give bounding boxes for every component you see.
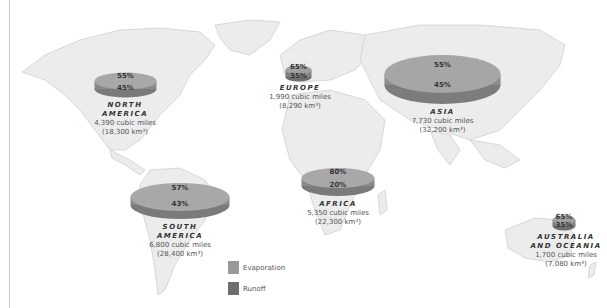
region-name-2: AND OCEANIA xyxy=(525,242,607,251)
volume-km: (32,200 km³) xyxy=(400,126,485,135)
volume-km: (22,300 km³) xyxy=(298,218,378,227)
world-map xyxy=(0,0,607,308)
evaporation-pct: 55% xyxy=(384,61,501,69)
runoff-pct: 43% xyxy=(130,200,230,208)
label-south-america: SOUTH AMERICA 6,800 cubic miles (28,400 … xyxy=(140,223,220,259)
volume-miles: 4,390 cubic miles xyxy=(85,119,165,128)
legend-runoff: Runoff xyxy=(228,282,266,295)
volume-miles: 7,730 cubic miles xyxy=(400,117,485,126)
evaporation-pct: 55% xyxy=(94,72,157,80)
volume-miles: 1,700 cubic miles xyxy=(525,251,607,260)
pie-north-america: 55% 45% xyxy=(94,70,157,98)
pie-south-america: 57% 43% xyxy=(130,180,230,220)
region-name: AFRICA xyxy=(298,200,378,209)
runoff-pct: 35% xyxy=(285,72,312,80)
region-name-2: AMERICA xyxy=(140,232,220,241)
volume-km: (8,290 km³) xyxy=(260,102,340,111)
evaporation-pct: 65% xyxy=(285,63,312,71)
volume-km: (18,300 km³) xyxy=(85,128,165,137)
volume-miles: 6,800 cubic miles xyxy=(140,241,220,250)
volume-km: (7,080 km³) xyxy=(525,260,607,269)
region-name: EUROPE xyxy=(260,84,340,93)
legend-evaporation-label: Evaporation xyxy=(243,264,285,272)
runoff-swatch xyxy=(228,282,239,295)
runoff-pct: 45% xyxy=(94,84,157,92)
pie-australia-oceania: 65% 35% xyxy=(552,213,576,231)
evaporation-swatch xyxy=(228,261,239,274)
region-name: NORTH xyxy=(85,101,165,110)
region-name: ASIA xyxy=(400,108,485,117)
label-europe: EUROPE 1,990 cubic miles (8,290 km³) xyxy=(260,84,340,111)
label-north-america: NORTH AMERICA 4,390 cubic miles (18,300 … xyxy=(85,101,165,137)
pie-africa: 80% 20% xyxy=(301,165,375,197)
runoff-pct: 35% xyxy=(552,221,576,229)
label-africa: AFRICA 5,350 cubic miles (22,300 km³) xyxy=(298,200,378,227)
evaporation-pct: 80% xyxy=(301,168,375,176)
evaporation-pct: 65% xyxy=(552,213,576,221)
volume-km: (28,400 km³) xyxy=(140,250,220,259)
runoff-pct: 45% xyxy=(384,81,501,89)
pie-asia: 55% 45% xyxy=(384,53,501,105)
label-australia-oceania: AUSTRALIA AND OCEANIA 1,700 cubic miles … xyxy=(525,233,607,269)
runoff-pct: 20% xyxy=(301,181,375,189)
volume-miles: 5,350 cubic miles xyxy=(298,209,378,218)
region-name-2: AMERICA xyxy=(85,110,165,119)
region-name: SOUTH xyxy=(140,223,220,232)
legend-evaporation: Evaporation xyxy=(228,261,285,274)
pie-europe: 65% 35% xyxy=(285,63,312,82)
label-asia: ASIA 7,730 cubic miles (32,200 km³) xyxy=(400,108,485,135)
region-name: AUSTRALIA xyxy=(525,233,607,242)
volume-miles: 1,990 cubic miles xyxy=(260,93,340,102)
legend-runoff-label: Runoff xyxy=(243,285,266,293)
evaporation-pct: 57% xyxy=(130,184,230,192)
